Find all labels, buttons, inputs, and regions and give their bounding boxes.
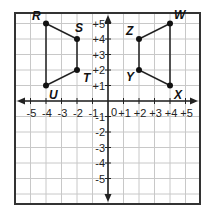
point-x <box>167 83 173 89</box>
y-tick-label: -1 <box>95 111 105 123</box>
arrow-up-icon <box>105 15 112 23</box>
y-tick-label: -5 <box>95 173 105 185</box>
x-tick-label: +4 <box>165 107 178 119</box>
x-tick-label: -5 <box>27 107 37 119</box>
coordinate-grid-diagram: -5-4-3-2-1+1+2+3+4+5+5+4+3+2+1-1-2-3-4-5… <box>0 0 209 215</box>
y-tick-label: -2 <box>95 126 105 138</box>
y-tick-label: +1 <box>92 80 105 92</box>
arrow-left-icon <box>17 98 25 105</box>
x-tick-label: +2 <box>134 107 147 119</box>
x-tick-label: -2 <box>73 107 83 119</box>
y-tick-label: +5 <box>92 18 105 30</box>
x-tick-label: +1 <box>118 107 131 119</box>
point-label-u: U <box>49 88 58 102</box>
x-tick-label: -4 <box>42 107 52 119</box>
y-tick-label: +2 <box>92 64 105 76</box>
point-y <box>136 67 142 73</box>
point-label-t: T <box>83 71 92 85</box>
y-tick-label: -4 <box>95 157 105 169</box>
point-label-z: Z <box>125 24 134 38</box>
x-tick-label: +5 <box>180 107 193 119</box>
arrow-right-icon <box>190 98 198 105</box>
point-label-r: R <box>32 9 41 23</box>
point-t <box>74 67 80 73</box>
coordinate-plane: -5-4-3-2-1+1+2+3+4+5+5+4+3+2+1-1-2-3-4-5… <box>0 0 209 215</box>
x-tick-label: -3 <box>58 107 68 119</box>
point-r <box>43 21 49 27</box>
y-tick-label: +4 <box>92 33 105 45</box>
point-label-y: Y <box>126 70 135 84</box>
point-label-s: S <box>75 21 83 35</box>
point-w <box>167 21 173 27</box>
x-tick-label: +3 <box>149 107 162 119</box>
point-label-w: W <box>174 8 187 22</box>
point-label-x: X <box>173 88 183 102</box>
y-tick-label: -3 <box>95 142 105 154</box>
point-s <box>74 36 80 42</box>
y-tick-label: +3 <box>92 49 105 61</box>
origin-label: 0 <box>111 106 117 118</box>
point-z <box>136 36 142 42</box>
arrow-down-icon <box>105 194 112 202</box>
